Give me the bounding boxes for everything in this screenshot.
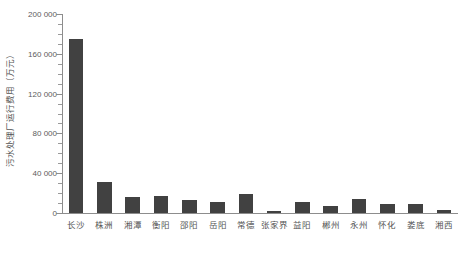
x-axis-tick-label: 娄底 (401, 218, 429, 230)
bar (408, 204, 423, 213)
x-axis-tick-label: 湘西 (430, 218, 458, 230)
bar-slot (380, 14, 395, 213)
bar (437, 210, 452, 213)
x-axis-tick-label: 长沙 (62, 218, 90, 230)
bar (323, 206, 338, 213)
x-axis-tick-labels: 长沙株洲湘潭衡阳邵阳岳阳常德张家界益阳郴州永州怀化娄底湘西 (62, 216, 458, 238)
y-axis-tick-labels: 040 00080 000120 000160 000200 000 (16, 0, 60, 215)
y-axis-tick-label: 200 000 (28, 10, 57, 19)
bar (125, 197, 140, 213)
y-axis-tick-label: 160 000 (28, 49, 57, 58)
x-axis-tick-label: 衡阳 (147, 218, 175, 230)
x-axis-tick-label: 永州 (345, 218, 373, 230)
plot-area (62, 14, 458, 213)
bar-slot (267, 14, 282, 213)
bar-slot (239, 14, 254, 213)
bar (69, 39, 84, 213)
bar-slot (352, 14, 367, 213)
bar (97, 182, 112, 213)
x-axis-tick-label: 常德 (232, 218, 260, 230)
bar-slot (182, 14, 197, 213)
bar (295, 202, 310, 213)
x-axis-tick-label: 张家界 (260, 218, 288, 230)
bar-slot (408, 14, 423, 213)
bar-slot (437, 14, 452, 213)
bar-slot (97, 14, 112, 213)
bar-chart: 污水处理厂运行费用（万元） 040 00080 000120 000160 00… (0, 0, 468, 255)
bar-slot (295, 14, 310, 213)
y-axis-tick-label: 80 000 (33, 129, 57, 138)
bar (380, 204, 395, 213)
bar (352, 199, 367, 213)
x-axis-tick-label: 岳阳 (203, 218, 231, 230)
bar (210, 202, 225, 213)
bar (239, 194, 254, 213)
bar (154, 196, 169, 213)
x-axis-tick-label: 邵阳 (175, 218, 203, 230)
bar-slot (125, 14, 140, 213)
y-axis-major-tick (56, 213, 62, 214)
y-axis-title-text: 污水处理厂运行费用（万元） (2, 49, 14, 166)
x-axis-tick-label: 郴州 (317, 218, 345, 230)
y-axis-tick-label: 40 000 (33, 169, 57, 178)
bar-slot (69, 14, 84, 213)
x-axis-tick-label: 益阳 (288, 218, 316, 230)
bar-slot (323, 14, 338, 213)
y-axis-tick-label: 120 000 (28, 89, 57, 98)
bar (182, 200, 197, 213)
y-axis-title: 污水处理厂运行费用（万元） (0, 0, 16, 215)
x-axis-tick-label: 湘潭 (119, 218, 147, 230)
x-axis-line (62, 213, 458, 214)
bar (267, 211, 282, 213)
bar-slot (210, 14, 225, 213)
x-axis-tick-label: 怀化 (373, 218, 401, 230)
bar-slot (154, 14, 169, 213)
x-axis-tick-label: 株洲 (90, 218, 118, 230)
